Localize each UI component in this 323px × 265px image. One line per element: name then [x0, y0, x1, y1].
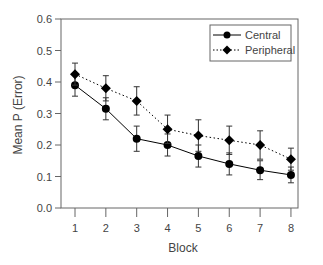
data-point: [101, 83, 111, 93]
data-point: [225, 160, 233, 168]
circle-marker-icon: [224, 32, 231, 39]
data-point: [194, 152, 202, 160]
x-tick-label: 4: [164, 222, 170, 234]
y-tick-label: 0.1: [37, 171, 52, 183]
y-tick-label: 0.3: [37, 108, 52, 120]
legend-label-central: Central: [245, 29, 280, 41]
x-tick-label: 1: [72, 222, 78, 234]
x-tick-label: 6: [226, 222, 232, 234]
y-tick-label: 0.5: [37, 45, 52, 57]
data-point: [286, 154, 296, 164]
y-tick-label: 0.4: [37, 76, 52, 88]
series-layer: [70, 63, 296, 183]
x-tick-label: 3: [134, 222, 140, 234]
data-point: [256, 166, 264, 174]
y-tick-label: 0.6: [37, 13, 52, 25]
data-point: [224, 135, 234, 145]
x-axis-label: Block: [168, 241, 198, 255]
legend: Central Peripheral: [210, 25, 295, 61]
legend-label-peripheral: Peripheral: [245, 44, 295, 56]
data-point: [193, 131, 203, 141]
series-peripheral: [70, 63, 296, 170]
x-tick-label: 7: [257, 222, 263, 234]
data-point: [255, 140, 265, 150]
data-point: [102, 105, 110, 113]
data-point: [70, 69, 80, 79]
x-axis: 12345678: [72, 208, 294, 234]
y-tick-label: 0.2: [37, 139, 52, 151]
y-axis-label: Mean P (Error): [11, 75, 25, 154]
x-tick-label: 5: [195, 222, 201, 234]
y-axis: 0.00.10.20.30.40.50.6: [37, 13, 61, 214]
data-point: [133, 135, 141, 143]
x-tick-label: 8: [288, 222, 294, 234]
x-tick-label: 2: [103, 222, 109, 234]
data-point: [287, 171, 295, 179]
y-tick-label: 0.0: [37, 202, 52, 214]
line-chart: 0.00.10.20.30.40.50.6 12345678 Mean P (E…: [0, 0, 323, 265]
